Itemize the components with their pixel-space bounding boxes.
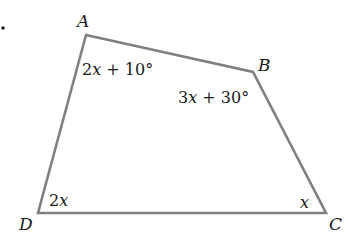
angle-label-a: 2x + 10° [82, 62, 153, 78]
vertex-label-d: D [19, 216, 33, 233]
angle-label-c: x [300, 195, 309, 211]
vertex-label-a: A [77, 13, 89, 30]
angle-label-d: 2x [49, 193, 68, 209]
bullet-dot [1, 26, 5, 30]
angle-label-b: 3x + 30° [178, 90, 249, 106]
vertex-label-b: B [258, 57, 271, 74]
quadrilateral-diagram: A B C D 2x + 10° 3x + 30° x 2x [0, 0, 350, 239]
vertex-label-c: C [329, 216, 342, 233]
